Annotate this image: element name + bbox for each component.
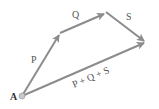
- vector-diagram: A P Q S P + Q + S: [0, 0, 159, 109]
- label-p: P: [31, 54, 37, 65]
- label-s: S: [126, 11, 132, 22]
- label-resultant: P + Q + S: [70, 64, 110, 89]
- vector-resultant: [22, 43, 144, 96]
- origin-label: A: [10, 91, 18, 102]
- origin-point: [19, 93, 25, 99]
- label-q: Q: [72, 9, 80, 20]
- vector-s: [106, 12, 144, 41]
- vector-p: [22, 35, 59, 96]
- vector-q: [60, 14, 104, 33]
